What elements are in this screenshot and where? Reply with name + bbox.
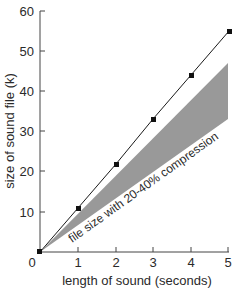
x-tick-label: 2 <box>112 255 119 270</box>
y-tick-label: 60 <box>20 4 34 19</box>
x-tick-label: 0 <box>28 255 35 270</box>
y-axis-title: size of sound file (k) <box>2 73 17 189</box>
y-tick-label: 50 <box>20 44 34 59</box>
y-ticks <box>40 11 45 212</box>
y-tick-label: 40 <box>20 84 34 99</box>
x-axis-title: length of sound (seconds) <box>62 273 212 288</box>
x-tick-label: 1 <box>74 255 81 270</box>
x-tick-label: 4 <box>187 255 194 270</box>
x-tick-label: 5 <box>224 255 231 270</box>
y-tick-label: 10 <box>20 205 34 220</box>
band-annotation: file size with 20-40% compression <box>66 129 221 245</box>
compression-band <box>40 63 228 252</box>
x-tick-label: 3 <box>149 255 156 270</box>
y-tick-label: 30 <box>20 124 34 139</box>
y-tick-label: 20 <box>20 164 34 179</box>
chart: 60 50 40 30 20 10 0 1 2 3 4 5 length of … <box>0 0 238 292</box>
x-ticks <box>78 247 228 252</box>
